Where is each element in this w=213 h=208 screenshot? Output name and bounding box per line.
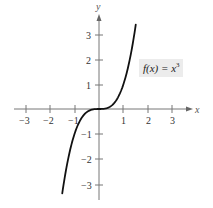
x-tick-labels: −3 −2 −1 1 2 3 [19, 115, 175, 126]
svg-text:−3: −3 [81, 180, 92, 191]
function-label: f(x) = x3 [143, 61, 180, 75]
svg-text:−1: −1 [68, 115, 79, 126]
svg-text:−3: −3 [19, 115, 30, 126]
x-axis-label: x [194, 104, 200, 115]
svg-text:−2: −2 [43, 115, 54, 126]
svg-text:−2: −2 [81, 154, 92, 165]
svg-text:1: 1 [121, 115, 126, 126]
svg-text:2: 2 [146, 115, 151, 126]
x-axis-arrow-icon [186, 107, 193, 112]
svg-text:2: 2 [86, 55, 91, 66]
svg-text:3: 3 [170, 115, 175, 126]
svg-text:1: 1 [86, 80, 91, 91]
y-axis-arrow-icon [97, 14, 102, 21]
cubic-function-graph: x y −3 −2 −1 1 2 3 3 2 1 −1 −2 −3 [0, 0, 213, 208]
function-label-main: f(x) = x [143, 62, 176, 75]
svg-text:3: 3 [86, 30, 91, 41]
function-label-exponent: 3 [176, 61, 180, 69]
y-axis-label: y [95, 1, 101, 12]
svg-text:−1: −1 [81, 129, 92, 140]
